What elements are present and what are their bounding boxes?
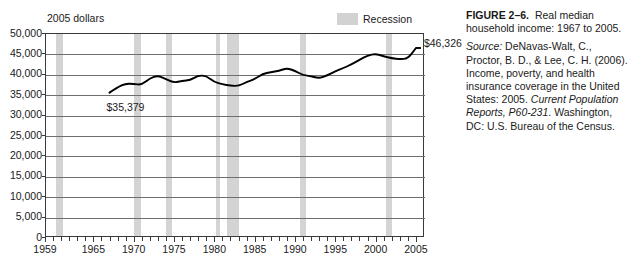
recession-legend-label: Recession (363, 13, 412, 25)
x-axis-tick-mark (101, 237, 102, 241)
chart-panel: 2005 dollars Recession 05,00010,00015,00… (0, 0, 448, 264)
x-axis-tick-mark (77, 237, 78, 241)
x-axis-tick-mark (376, 237, 377, 242)
x-axis-tick-marks (45, 237, 424, 242)
x-axis-tick-label: 1990 (283, 243, 306, 255)
x-axis-tick-mark (255, 237, 256, 242)
x-axis-tick-mark (384, 237, 385, 241)
x-axis-tick-mark (182, 237, 183, 241)
x-axis-tick-mark (408, 237, 409, 241)
x-axis-tick-label: 1959 (33, 243, 56, 255)
x-axis-tick-mark (295, 237, 296, 242)
x-axis-tick-mark (263, 237, 264, 241)
end-value-label: $46,326 (424, 37, 462, 49)
figure-container: 2005 dollars Recession 05,00010,00015,00… (0, 0, 635, 264)
y-axis-unit-label: 2005 dollars (47, 12, 104, 24)
x-axis-tick-mark (166, 237, 167, 241)
plot-area (45, 33, 424, 237)
x-axis-tick-label: 1985 (243, 243, 266, 255)
x-axis-tick-mark (343, 237, 344, 241)
x-axis-tick-mark (134, 237, 135, 242)
x-axis-tick-label: 1980 (203, 243, 226, 255)
x-axis-tick-label: 1965 (82, 243, 105, 255)
x-axis-tick-mark (93, 237, 94, 242)
income-line-path (110, 48, 416, 93)
x-axis-tick-mark (174, 237, 175, 242)
source-label: Source: (466, 40, 502, 52)
x-axis-tick-mark (359, 237, 360, 241)
x-axis-tick-mark (335, 237, 336, 242)
x-axis-tick-mark (61, 237, 62, 241)
income-line-series (45, 33, 424, 237)
start-value-label: $35,379 (107, 101, 145, 113)
x-axis-tick-mark (400, 237, 401, 241)
x-axis-tick-mark (150, 237, 151, 241)
figure-caption: FIGURE 2–6.Real median household income:… (466, 9, 628, 133)
x-axis-tick-mark (85, 237, 86, 241)
x-axis-tick-mark (214, 237, 215, 242)
x-axis-tick-mark (53, 237, 54, 241)
x-axis-tick-label: 1975 (162, 243, 185, 255)
x-axis-tick-mark (271, 237, 272, 241)
x-axis-tick-label: 1995 (324, 243, 347, 255)
chart-legend: Recession (337, 12, 412, 25)
y-axis-tick-marks (0, 33, 45, 237)
x-axis-tick-mark (311, 237, 312, 241)
x-axis-tick-mark (222, 237, 223, 241)
x-axis-tick-mark (126, 237, 127, 241)
x-axis-tick-label: 2005 (404, 243, 427, 255)
x-axis-tick-mark (142, 237, 143, 241)
x-axis-tick-mark (158, 237, 159, 241)
figure-number: FIGURE 2–6. (466, 9, 535, 21)
x-axis-tick-mark (327, 237, 328, 241)
x-axis-tick-label: 2000 (364, 243, 387, 255)
x-axis-tick-mark (319, 237, 320, 241)
x-axis-tick-mark (190, 237, 191, 241)
x-axis-tick-mark (247, 237, 248, 241)
x-axis-tick-mark (239, 237, 240, 241)
caption-title-line: FIGURE 2–6.Real median household income:… (466, 9, 628, 35)
x-axis-tick-mark (287, 237, 288, 241)
x-axis-tick-mark (416, 237, 417, 242)
x-axis-tick-mark (279, 237, 280, 241)
x-axis-tick-mark (45, 237, 46, 242)
x-axis-tick-mark (118, 237, 119, 241)
caption-source-line: Source: DeNavas-Walt, C., Proctor, B. D.… (466, 40, 628, 132)
x-axis-tick-mark (69, 237, 70, 241)
x-axis-tick-mark (110, 237, 111, 241)
x-axis-tick-mark (198, 237, 199, 241)
x-axis-tick-label: 1970 (122, 243, 145, 255)
recession-legend-swatch (337, 13, 358, 25)
x-axis-tick-mark (392, 237, 393, 241)
x-axis-tick-mark (368, 237, 369, 241)
x-axis-tick-mark (230, 237, 231, 241)
x-axis-tick-mark (351, 237, 352, 241)
x-axis-tick-mark (303, 237, 304, 241)
x-axis-tick-mark (206, 237, 207, 241)
x-axis-tick-labels: 1959196519701975198019851990199520002005 (0, 243, 448, 257)
